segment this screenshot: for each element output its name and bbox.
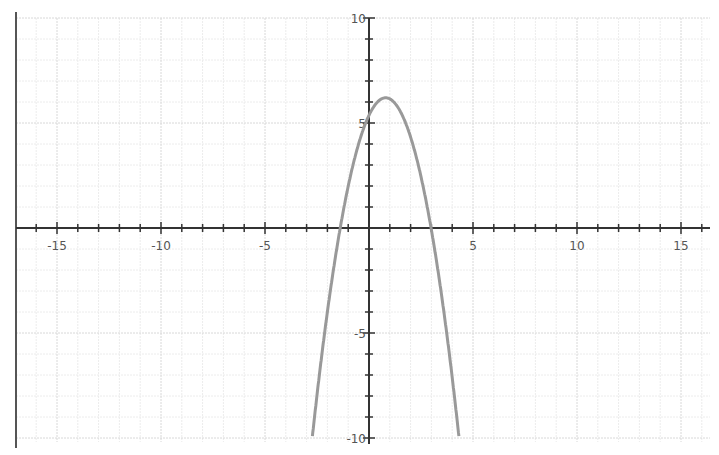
x-tick-label: -5: [259, 239, 271, 253]
function-plot: -15-10-551015105-5-10: [0, 0, 719, 455]
x-tick-label: -10: [151, 239, 171, 253]
x-tick-label: 10: [569, 239, 584, 253]
x-tick-label: 5: [469, 239, 477, 253]
parabola-curve: [312, 98, 459, 436]
x-tick-label: -15: [47, 239, 67, 253]
x-tick-label: 15: [673, 239, 688, 253]
y-tick-label: -10: [346, 432, 366, 446]
y-tick-label: -5: [354, 327, 366, 341]
y-tick-label: 10: [351, 12, 366, 26]
